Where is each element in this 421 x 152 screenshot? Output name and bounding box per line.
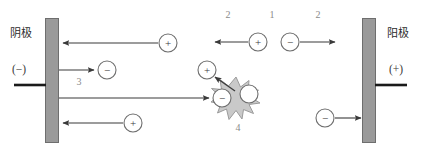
plus-icon: + — [255, 36, 261, 48]
particle-electron-mid-right-moving: − — [281, 33, 299, 51]
particle-ion-ejected-from-burst: + — [198, 61, 216, 79]
particle-ion-bottom-incoming: + — [124, 114, 142, 132]
minus-icon: − — [287, 36, 293, 48]
index-label-top-right: 2 — [316, 9, 321, 20]
particle-electron-to-anode: − — [316, 109, 334, 127]
particle-ion-mid-left-moving: + — [249, 33, 267, 51]
index-label-top-middle: 1 — [270, 9, 275, 20]
cathode-plate — [46, 19, 59, 143]
neutral-particle — [240, 85, 258, 103]
index-label-cathode-emission: 3 — [77, 76, 82, 87]
particle-ion-top-incoming: + — [159, 34, 177, 52]
diagram-canvas: 阴极 阳极 (−) (+) 2 1 2 3 4 — [0, 0, 421, 152]
minus-icon: − — [104, 64, 110, 76]
plus-icon: + — [130, 117, 136, 129]
particle-electron-entering-burst: − — [213, 89, 231, 107]
anode-name-label: 阳极 — [387, 26, 409, 40]
minus-icon: − — [322, 112, 328, 124]
electrode-diagram: 阴极 阳极 (−) (+) 2 1 2 3 4 — [0, 0, 421, 152]
cathode-polarity-label: (−) — [12, 63, 26, 76]
cathode-name-label: 阴极 — [10, 26, 32, 40]
index-label-burst: 4 — [236, 122, 241, 133]
index-label-top-left: 2 — [226, 9, 231, 20]
minus-icon: − — [219, 92, 225, 104]
particle-electron-emitted: − — [98, 61, 116, 79]
plus-icon: + — [165, 37, 171, 49]
plus-icon: + — [204, 64, 210, 76]
anode-polarity-label: (+) — [389, 63, 403, 76]
anode-plate — [363, 19, 376, 143]
